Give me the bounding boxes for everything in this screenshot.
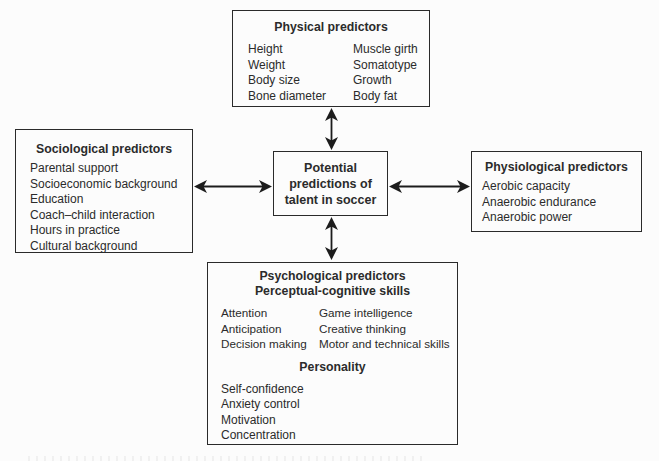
list-item: Decision making xyxy=(221,336,319,352)
physical-predictors-columns: Height Weight Body size Bone diameter Mu… xyxy=(233,42,429,104)
double-arrow-top-center-icon xyxy=(323,108,340,150)
list-item: Anaerobic endurance xyxy=(482,195,641,211)
physical-left-column: Height Weight Body size Bone diameter xyxy=(248,42,353,104)
list-item: Growth xyxy=(353,73,418,89)
sociological-predictors-title: Sociological predictors xyxy=(16,142,192,157)
list-item: Coach–child interaction xyxy=(30,208,192,224)
list-item: Anticipation xyxy=(221,321,319,337)
psychological-predictors-box: Psychological predictors Perceptual-cogn… xyxy=(207,262,458,445)
physical-predictors-box: Physical predictors Height Weight Body s… xyxy=(232,10,430,107)
list-item: Parental support xyxy=(30,161,192,177)
perceptual-cognitive-skills-subtitle: Perceptual-cognitive skills xyxy=(208,284,457,299)
list-item: Somatotype xyxy=(353,58,418,74)
sociological-items: Parental support Socioeconomic backgroun… xyxy=(16,161,192,254)
talent-prediction-diagram: Physical predictors Height Weight Body s… xyxy=(0,0,659,461)
center-line: Potential xyxy=(274,160,387,176)
list-item: Hours in practice xyxy=(30,223,192,239)
psychological-predictors-title: Psychological predictors xyxy=(208,269,457,284)
list-item: Body fat xyxy=(353,89,418,105)
psychological-columns: Attention Anticipation Decision making G… xyxy=(208,305,457,352)
list-item: Game intelligence xyxy=(319,305,450,321)
list-item: Self-confidence xyxy=(221,382,457,398)
list-item: Muscle girth xyxy=(353,42,418,58)
list-item: Socioeconomic background xyxy=(30,177,192,193)
list-item: Aerobic capacity xyxy=(482,179,641,195)
personality-items: Self-confidence Anxiety control Motivati… xyxy=(208,382,457,444)
physiological-predictors-box: Physiological predictors Aerobic capacit… xyxy=(471,151,642,232)
list-item: Attention xyxy=(221,305,319,321)
center-line: talent in soccer xyxy=(274,192,387,208)
sociological-predictors-box: Sociological predictors Parental support… xyxy=(15,129,193,253)
physical-right-column: Muscle girth Somatotype Growth Body fat xyxy=(353,42,418,104)
double-arrow-center-right-icon xyxy=(389,178,470,195)
central-potential-predictions-box: Potential predictions of talent in socce… xyxy=(273,151,388,216)
list-item: Weight xyxy=(248,58,353,74)
list-item: Anaerobic power xyxy=(482,210,641,226)
physical-predictors-title: Physical predictors xyxy=(233,20,429,35)
psychological-left-column: Attention Anticipation Decision making xyxy=(221,305,319,352)
list-item: Concentration xyxy=(221,428,457,444)
list-item: Education xyxy=(30,192,192,208)
list-item: Height xyxy=(248,42,353,58)
list-item: Body size xyxy=(248,73,353,89)
cropped-caption-remnant xyxy=(28,456,428,461)
list-item: Bone diameter xyxy=(248,89,353,105)
psychological-right-column: Game intelligence Creative thinking Moto… xyxy=(319,305,450,352)
personality-title: Personality xyxy=(208,360,457,375)
list-item: Motor and technical skills xyxy=(319,336,450,352)
list-item: Motivation xyxy=(221,413,457,429)
double-arrow-left-center-icon xyxy=(194,178,272,195)
double-arrow-center-bottom-icon xyxy=(323,217,340,260)
list-item: Anxiety control xyxy=(221,397,457,413)
list-item: Creative thinking xyxy=(319,321,450,337)
physiological-predictors-title: Physiological predictors xyxy=(472,160,641,175)
center-line: predictions of xyxy=(274,176,387,192)
physiological-items: Aerobic capacity Anaerobic endurance Ana… xyxy=(472,179,641,226)
list-item: Cultural background xyxy=(30,239,192,255)
